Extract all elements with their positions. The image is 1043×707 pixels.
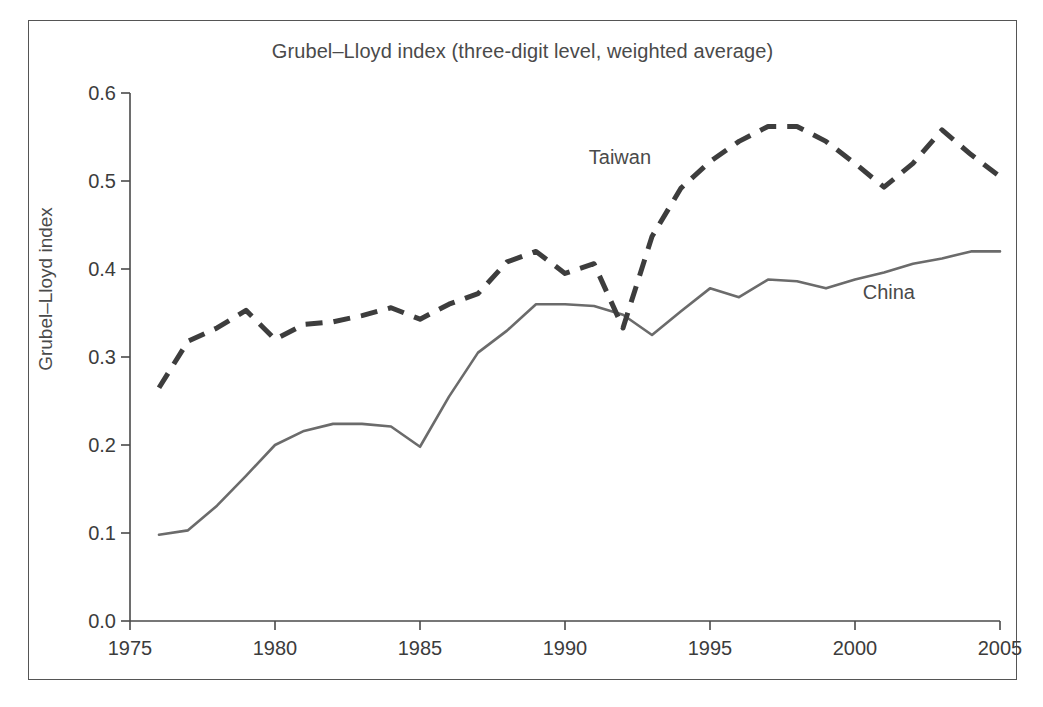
series-line-taiwan: [159, 126, 1000, 387]
x-axis-ticks: [130, 621, 1000, 630]
data-series-group: [159, 126, 1000, 534]
y-axis-ticks: [121, 93, 130, 621]
plot-area: [0, 0, 1043, 707]
figure-container: Grubel–Lloyd index (three-digit level, w…: [0, 0, 1043, 707]
series-annotation-taiwan: Taiwan: [589, 146, 651, 169]
series-annotation-china: China: [863, 281, 915, 304]
